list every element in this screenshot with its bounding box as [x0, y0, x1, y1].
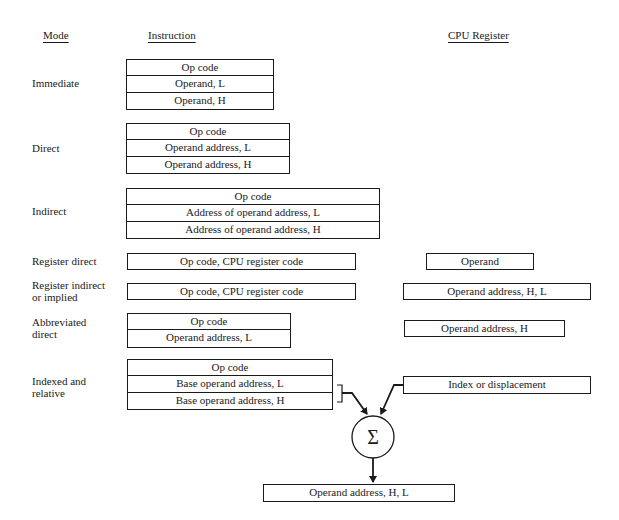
adder-connections [0, 0, 619, 520]
bracket-icon [337, 385, 342, 402]
sigma-icon: Σ [352, 416, 394, 458]
result-box-operand-address: Operand address, H, L [263, 484, 455, 502]
arrow-base-to-adder [342, 393, 367, 414]
arrow-index-to-adder [381, 385, 403, 414]
